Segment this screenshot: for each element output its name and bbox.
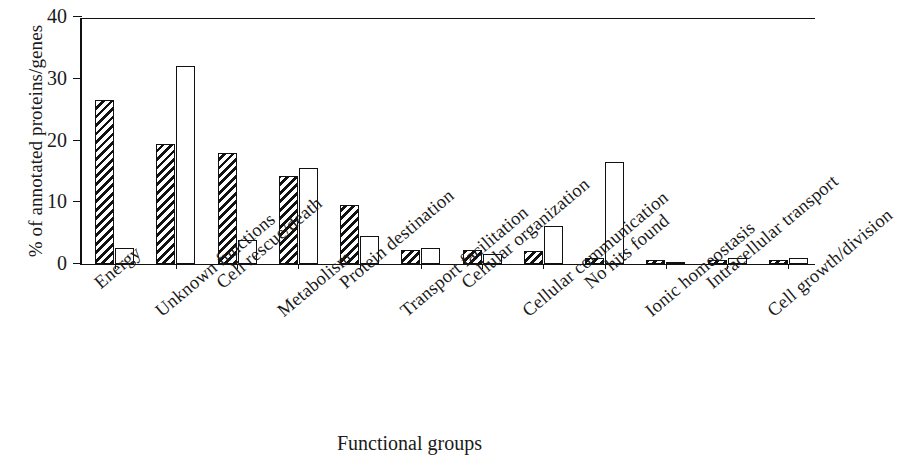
bar-open	[789, 258, 808, 264]
x-tick	[788, 264, 789, 269]
x-axis-category-labels: EnergyUnknown functionsCell rescue/death…	[0, 272, 819, 422]
y-tick-30: 30	[73, 78, 82, 79]
bar-open	[421, 248, 440, 264]
bar-hatched	[401, 250, 420, 264]
x-axis-title: Functional groups	[0, 432, 819, 455]
bar-groups	[82, 19, 815, 264]
bar-hatched	[524, 251, 543, 264]
x-tick	[176, 264, 177, 269]
y-tick-label: 20	[47, 129, 67, 151]
bar-hatched	[156, 144, 175, 264]
bar-open	[666, 262, 685, 264]
y-tick-20: 20	[73, 140, 82, 141]
bar-group	[156, 19, 195, 264]
y-tick-label: 10	[47, 190, 67, 212]
bar-hatched	[769, 260, 788, 264]
y-tick-label: 30	[47, 67, 67, 89]
bar-group	[95, 19, 134, 264]
y-axis-title: % of annotated proteins/genes	[25, 1, 47, 281]
y-tick-10: 10	[73, 201, 82, 202]
y-tick-0: 0	[73, 263, 82, 264]
x-tick	[421, 264, 422, 269]
bar-open	[544, 226, 563, 264]
bar-hatched	[646, 260, 665, 264]
x-tick	[298, 264, 299, 269]
bar-group	[340, 19, 379, 264]
y-tick-label: 0	[57, 252, 67, 274]
bar-hatched	[95, 100, 114, 264]
x-tick	[666, 264, 667, 269]
y-tick-label: 40	[47, 5, 67, 27]
x-tick	[543, 264, 544, 269]
y-tick-40: 40	[73, 16, 82, 17]
bar-open	[176, 66, 195, 264]
plot-area: 010203040	[80, 18, 815, 265]
